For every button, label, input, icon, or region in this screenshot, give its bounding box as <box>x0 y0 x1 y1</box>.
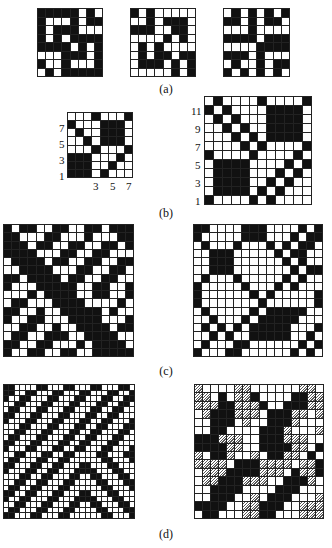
grid-cell <box>274 18 281 26</box>
grid-cell <box>45 341 52 348</box>
grid-cell <box>118 299 125 306</box>
grid-cell <box>87 43 94 51</box>
grid-cell <box>91 385 95 390</box>
grid-cell <box>316 494 323 501</box>
grid-cell <box>258 106 266 114</box>
grid-cell <box>250 124 258 132</box>
grid-cell <box>276 502 283 509</box>
grid-cell <box>294 106 302 114</box>
grid-cell <box>64 396 68 401</box>
grid-cell <box>28 299 35 306</box>
grid-cell <box>307 258 314 265</box>
grid-cell <box>108 497 112 502</box>
grid-cell <box>86 385 90 390</box>
grid-cell <box>26 424 30 429</box>
grid-cell <box>119 508 123 513</box>
grid-cell <box>15 469 19 474</box>
grid-cell <box>59 385 63 390</box>
grid-cell <box>85 242 92 249</box>
grid-cell <box>250 187 258 195</box>
grid-cell <box>101 121 108 128</box>
grid-cell <box>219 460 226 467</box>
grid-cell <box>180 60 187 68</box>
grid-cell <box>268 435 275 442</box>
b1-ytick: 7 <box>59 122 65 134</box>
grid-cell <box>268 427 275 434</box>
grid-cell <box>276 196 284 204</box>
grid-cell <box>250 242 257 249</box>
grid-cell <box>274 43 281 51</box>
grid-cell <box>203 469 210 476</box>
grid-cell <box>316 452 323 459</box>
grid-cell <box>86 463 90 468</box>
grid-cell <box>91 391 95 396</box>
grid-cell <box>251 427 258 434</box>
grid-cell <box>61 341 68 348</box>
grid-cell <box>42 424 46 429</box>
grid-cell <box>315 242 322 249</box>
grid-cell <box>315 225 322 232</box>
grid-cell <box>37 502 41 507</box>
grid-cell <box>59 452 63 457</box>
b2-ytick: 3 <box>195 177 201 189</box>
grid-cell <box>59 474 63 479</box>
grid-cell <box>110 250 117 257</box>
grid-cell <box>113 452 117 457</box>
grid-cell <box>265 43 272 51</box>
grid-cell <box>285 151 293 159</box>
grid-cell <box>194 250 201 257</box>
grid-cell <box>70 391 74 396</box>
grid-cell <box>64 424 68 429</box>
grid-cell <box>15 407 19 412</box>
grid-cell <box>102 225 109 232</box>
grid-cell <box>87 35 94 43</box>
grid-cell <box>26 419 30 424</box>
grid-cell <box>4 299 11 306</box>
grid-cell <box>130 469 134 474</box>
grid-cell <box>257 43 264 51</box>
grid-cell <box>64 513 68 518</box>
grid-cell <box>46 52 53 60</box>
grid-cell <box>37 299 44 306</box>
grid-cell <box>219 511 226 518</box>
grid-cell <box>53 349 60 356</box>
grid-cell <box>119 419 123 424</box>
grid-cell <box>69 225 76 232</box>
grid-cell <box>20 250 27 257</box>
grid-cell <box>42 435 46 440</box>
grid-cell <box>119 486 123 491</box>
grid-cell <box>260 419 267 426</box>
grid-cell <box>37 332 44 339</box>
grid-cell <box>20 474 24 479</box>
grid-cell <box>250 225 257 232</box>
grid-cell <box>265 69 272 77</box>
grid-cell <box>79 18 86 26</box>
grid-cell <box>249 69 256 77</box>
grid-cell <box>195 427 202 434</box>
grid-cell <box>210 233 217 240</box>
grid-cell <box>232 69 239 77</box>
grid-cell <box>42 413 46 418</box>
grid-cell <box>97 441 101 446</box>
grid-cell <box>75 474 79 479</box>
grid-cell <box>69 341 76 348</box>
grid-cell <box>113 407 117 412</box>
grid-cell <box>303 187 311 195</box>
grid-cell <box>257 26 264 34</box>
grid-cell <box>202 291 209 298</box>
grid-cell <box>48 413 52 418</box>
grid-cell <box>232 97 240 105</box>
grid-cell <box>308 419 315 426</box>
grid-cell <box>80 430 84 435</box>
grid-cell <box>283 349 290 356</box>
grid-cell <box>20 275 27 282</box>
grid-cell <box>70 502 74 507</box>
grid-cell <box>259 299 266 306</box>
grid-cell <box>20 413 24 418</box>
grid-cell <box>20 463 24 468</box>
grid-cell <box>250 299 257 306</box>
grid-cell <box>211 435 218 442</box>
grid-cell <box>130 452 134 457</box>
grid-cell <box>131 35 138 43</box>
grid-cell <box>227 402 234 409</box>
